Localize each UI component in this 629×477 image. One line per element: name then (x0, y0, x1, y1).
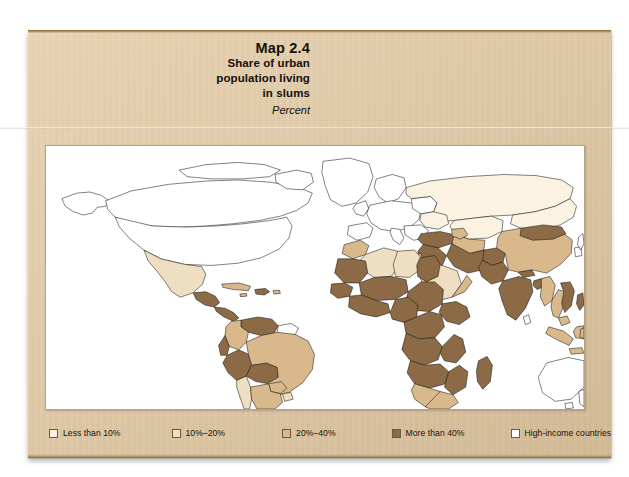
map-title-line-3: in slums (58, 86, 310, 101)
region-chile (237, 376, 252, 409)
region-libya (393, 250, 421, 277)
region-alaska (62, 192, 109, 215)
region-indonesia-java (569, 348, 584, 355)
region-iberia (347, 223, 373, 241)
region-indonesia-sumatra (546, 327, 574, 346)
legend-label-20-40: 20%–40% (296, 428, 336, 438)
region-guatemala-honduras (193, 292, 220, 307)
region-italy (390, 228, 404, 244)
region-nicaragua-costarica-panama (214, 307, 239, 321)
legend-swatch-less-than-10 (49, 429, 58, 438)
map-units-label: Percent (58, 101, 310, 118)
legend-swatch-10-20 (172, 429, 181, 438)
region-malaysia (558, 316, 570, 326)
map-legend: Less than 10% 10%–20% 20%–40% More than … (45, 423, 583, 443)
legend-item-2[interactable]: 20%–40% (282, 428, 336, 438)
region-madagascar (476, 356, 492, 389)
legend-item-3[interactable]: More than 40% (392, 428, 465, 438)
page-bottom-edge (28, 454, 611, 458)
legend-swatch-20-40 (282, 429, 291, 438)
region-new-zealand (579, 389, 584, 407)
region-philippines (577, 293, 584, 311)
legend-item-1[interactable]: 10%–20% (172, 428, 226, 438)
region-ukraine-belarus (420, 212, 449, 230)
region-western-sahara-mauritania (335, 259, 368, 283)
region-tasmania (565, 402, 574, 409)
region-sri-lanka (523, 315, 530, 325)
region-puerto-rico (273, 290, 280, 294)
legend-swatch-more-than-40 (392, 429, 401, 438)
world-map (46, 146, 584, 409)
scanned-page-sheet: Map 2.4 Share of urban population living… (28, 30, 611, 458)
region-india (499, 276, 533, 320)
region-greenland (322, 158, 373, 206)
legend-label-10-20: 10%–20% (186, 428, 226, 438)
map-number: Map 2.4 (58, 40, 310, 56)
map-panel (45, 145, 585, 410)
region-australia (538, 357, 584, 401)
legend-label-more-than-40: More than 40% (406, 428, 465, 438)
legend-item-4[interactable]: High-income countries (511, 428, 612, 438)
map-title-block: Map 2.4 Share of urban population living… (58, 40, 310, 118)
legend-item-0[interactable]: Less than 10% (49, 428, 121, 438)
region-cuba (222, 283, 251, 291)
region-ethiopia-somalia (439, 302, 470, 325)
legend-swatch-high-income (511, 429, 520, 438)
legend-label-less-than-10: Less than 10% (63, 428, 121, 438)
legend-label-high-income: High-income countries (525, 428, 612, 438)
map-title-line-1: Share of urban (58, 56, 310, 71)
region-uruguay (283, 393, 294, 402)
region-hispaniola (255, 288, 270, 295)
region-jamaica (240, 293, 247, 296)
region-arctic-islands (179, 162, 280, 178)
map-title-line-2: population living (58, 71, 310, 86)
region-kenya-tanzania (440, 334, 466, 362)
region-angola-zambia (407, 361, 449, 388)
page-top-edge (28, 30, 611, 33)
region-mozambique-zimbabwe (444, 365, 467, 395)
region-scandinavia (374, 174, 406, 202)
